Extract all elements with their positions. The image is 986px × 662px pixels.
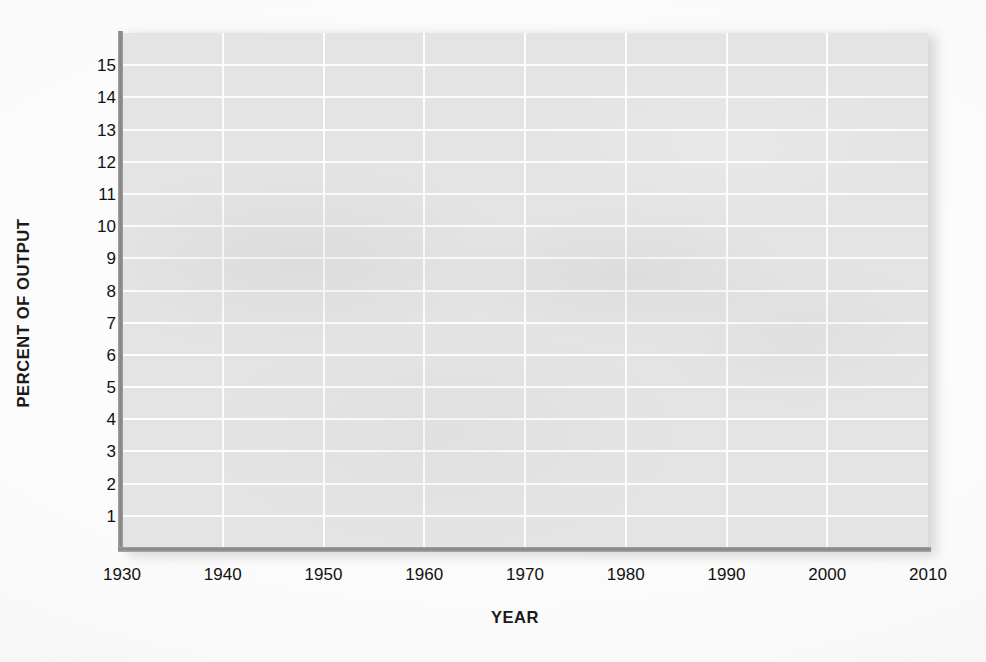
gridline-vertical <box>726 33 728 548</box>
chart-figure: PERCENT OF OUTPUT 151413121110987654321 … <box>0 0 986 662</box>
gridline-vertical <box>222 33 224 548</box>
x-tick-label: 2000 <box>782 566 872 583</box>
x-axis-tick-labels: 193019401950196019701980199020002010 <box>0 566 986 596</box>
y-tick-label: 2 <box>72 475 116 492</box>
gridline-vertical <box>423 33 425 548</box>
y-tick-label: 6 <box>72 346 116 363</box>
y-tick-label: 3 <box>72 443 116 460</box>
x-axis-title-text: YEAR <box>491 608 539 627</box>
x-tick-label: 1980 <box>581 566 671 583</box>
plot-area <box>118 31 933 556</box>
y-tick-label: 9 <box>72 250 116 267</box>
y-axis-tick-labels: 151413121110987654321 <box>72 0 116 662</box>
y-tick-label: 10 <box>72 218 116 235</box>
gridline-vertical <box>826 33 828 548</box>
y-axis-title: PERCENT OF OUTPUT <box>0 56 46 570</box>
y-tick-label: 7 <box>72 314 116 331</box>
y-tick-label: 1 <box>72 507 116 524</box>
y-tick-label: 11 <box>72 185 116 202</box>
x-tick-label: 1990 <box>682 566 772 583</box>
y-tick-label: 8 <box>72 282 116 299</box>
x-tick-label: 2010 <box>883 566 973 583</box>
plot-grid-face <box>122 33 928 548</box>
y-tick-label: 14 <box>72 89 116 106</box>
x-tick-label: 1940 <box>178 566 268 583</box>
y-tick-label: 12 <box>72 153 116 170</box>
y-tick-label: 5 <box>72 379 116 396</box>
x-tick-label: 1950 <box>279 566 369 583</box>
y-axis-spine <box>118 31 123 550</box>
x-axis-spine <box>118 547 931 552</box>
x-tick-label: 1960 <box>379 566 469 583</box>
gridline-vertical <box>323 33 325 548</box>
x-tick-label: 1970 <box>480 566 570 583</box>
y-tick-label: 4 <box>72 411 116 428</box>
y-tick-label: 13 <box>72 121 116 138</box>
y-tick-label: 15 <box>72 57 116 74</box>
gridline-vertical <box>524 33 526 548</box>
x-tick-label: 1930 <box>77 566 167 583</box>
x-axis-title: YEAR <box>0 608 986 627</box>
gridline-vertical <box>625 33 627 548</box>
